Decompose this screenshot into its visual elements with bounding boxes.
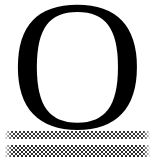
halftone-rule-top <box>5 131 150 139</box>
scanned-page-canvas: O halftone rule halftone rule <box>0 0 155 161</box>
dropcap-letter-o: O <box>0 0 155 130</box>
halftone-rule-bottom <box>5 145 150 157</box>
